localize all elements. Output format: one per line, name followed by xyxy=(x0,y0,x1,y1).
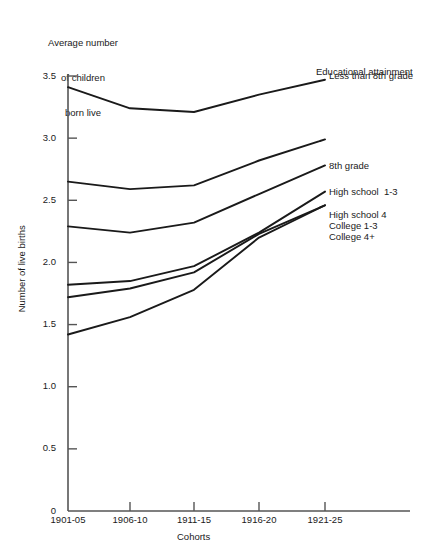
y-tick-label-3: 1.5 xyxy=(22,318,56,330)
y-tick-label-7: 3.5 xyxy=(22,70,56,82)
y-tick-label-1: 0.5 xyxy=(22,442,56,454)
x-tick-label-0: 1901-05 xyxy=(38,514,98,526)
series-line-4 xyxy=(68,205,325,297)
legend-label-1: 8th grade xyxy=(329,160,369,172)
plot-area xyxy=(0,0,444,556)
legend-label-4: College 1-3 xyxy=(329,220,378,232)
series-line-0 xyxy=(68,80,325,112)
y-tick-label-4: 2.0 xyxy=(22,256,56,268)
x-tick-label-2: 1911-15 xyxy=(164,514,224,526)
legend-label-2: High school 1-3 xyxy=(329,186,398,198)
chart-figure: Average number of children born live Edu… xyxy=(0,0,444,556)
y-tick-label-6: 3.0 xyxy=(22,132,56,144)
legend-label-3: High school 4 xyxy=(329,209,387,221)
y-tick-label-5: 2.5 xyxy=(22,194,56,206)
x-tick-label-4: 1921-25 xyxy=(295,514,355,526)
y-tick-label-2: 1.0 xyxy=(22,380,56,392)
legend-label-5: College 4+ xyxy=(329,231,375,243)
x-tick-label-1: 1906-10 xyxy=(100,514,160,526)
legend-label-0: Less than 8th grade xyxy=(329,70,413,82)
x-tick-label-3: 1916-20 xyxy=(229,514,289,526)
